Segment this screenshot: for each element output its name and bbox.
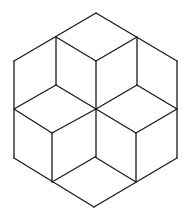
inner-edges	[14, 37, 177, 182]
cube-tiling-diagram	[0, 0, 189, 219]
